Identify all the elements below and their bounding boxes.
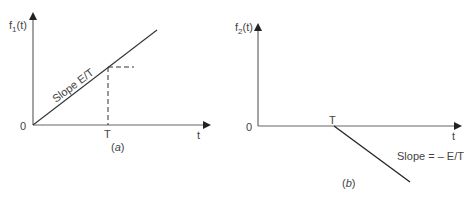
y-axis-label-a: f1(t) — [9, 19, 27, 34]
x-axis-label-b: t — [452, 130, 455, 142]
ramp-line-a — [33, 30, 157, 125]
caption-b: (b) — [342, 177, 355, 189]
slope-label-a: Slope E/T — [50, 66, 96, 105]
figure-a: f1(t) 0 T t Slope E/T (a) — [9, 14, 209, 153]
figure-b: f2(t) 0 T t Slope = – E/T (b) — [235, 21, 464, 189]
t-tick-label-a: T — [104, 128, 111, 140]
caption-a: (a) — [111, 141, 124, 153]
t-tick-label-b: T — [329, 114, 336, 126]
ramp-functions-diagram: f1(t) 0 T t Slope E/T (a) f2(t) 0 T t Sl… — [0, 0, 471, 201]
origin-label-b: 0 — [246, 121, 252, 133]
x-axis-label-a: t — [197, 129, 200, 141]
origin-label-a: 0 — [20, 120, 26, 132]
y-axis-label-b: f2(t) — [235, 21, 253, 36]
slope-label-b: Slope = – E/T — [397, 150, 464, 162]
